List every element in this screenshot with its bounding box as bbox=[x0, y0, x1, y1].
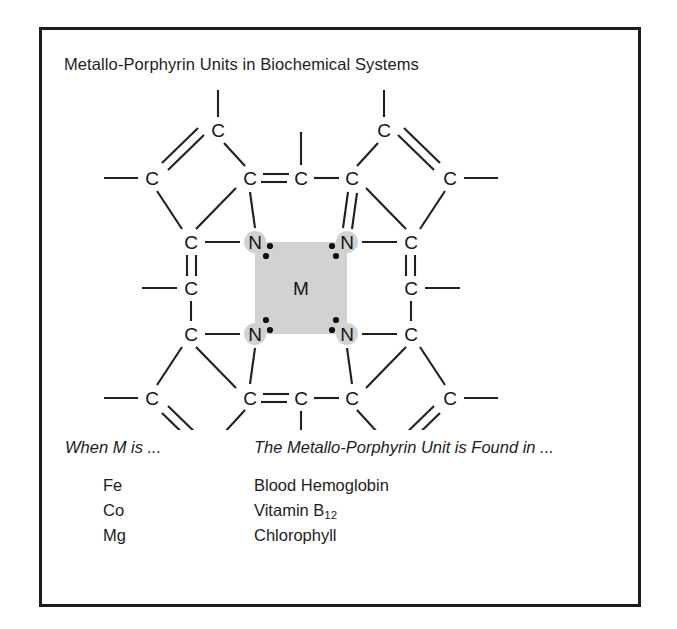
legend-row: FeBlood Hemoglobin bbox=[42, 476, 638, 501]
legend-found-in: Blood Hemoglobin bbox=[254, 476, 389, 495]
atom-C-gamma-bottom-left: C bbox=[145, 388, 159, 409]
atom-C-gamma-top-right: C bbox=[443, 168, 457, 189]
atom-C-alpha-left-bottom: C bbox=[184, 324, 198, 345]
legend-found-in: Chlorophyll bbox=[254, 526, 337, 545]
legend-header-metal: When M is ... bbox=[65, 438, 161, 457]
legend-metal-symbol: Fe bbox=[103, 476, 122, 495]
legend-header-row: When M is ... The Metallo-Porphyrin Unit… bbox=[42, 438, 638, 468]
lone-pair-dot bbox=[267, 243, 273, 249]
legend-row: CoVitamin B12 bbox=[42, 501, 638, 526]
lone-pair-dot bbox=[329, 243, 335, 249]
atom-C-meso-left: C bbox=[184, 278, 198, 299]
atom-C-alpha-bottom-right: C bbox=[345, 388, 359, 409]
atom-C-beta-top-right: C bbox=[377, 120, 391, 141]
legend-metal-symbol: Co bbox=[103, 501, 124, 520]
metal-center-label: M bbox=[293, 278, 309, 299]
atom-C-alpha-top-left: C bbox=[243, 168, 257, 189]
legend-header-found: The Metallo-Porphyrin Unit is Found in .… bbox=[254, 438, 554, 457]
lone-pair-dot bbox=[333, 317, 339, 323]
lone-pair-dot bbox=[329, 327, 335, 333]
atom-N-bottom-right: N bbox=[340, 324, 354, 345]
atom-N-top-left: N bbox=[248, 232, 262, 253]
legend-rows: FeBlood HemoglobinCoVitamin B12MgChlorop… bbox=[42, 476, 638, 551]
chemical-structure-diagram: N N N N C C C C C C C C C C C C C C C C bbox=[42, 90, 638, 430]
figure-frame: Metallo-Porphyrin Units in Biochemical S… bbox=[39, 27, 641, 607]
atom-C-meso-top: C bbox=[294, 168, 308, 189]
atom-C-alpha-right-top: C bbox=[404, 232, 418, 253]
atom-C-gamma-bottom-right: C bbox=[443, 388, 457, 409]
atom-C-gamma-top-left: C bbox=[145, 168, 159, 189]
lone-pair-dot bbox=[333, 253, 339, 259]
legend-metal-symbol: Mg bbox=[103, 526, 126, 545]
atom-C-alpha-bottom-left: C bbox=[243, 388, 257, 409]
figure-title: Metallo-Porphyrin Units in Biochemical S… bbox=[64, 55, 419, 74]
atom-C-meso-bottom: C bbox=[294, 388, 308, 409]
legend-found-in: Vitamin B12 bbox=[254, 501, 337, 520]
legend-row: MgChlorophyll bbox=[42, 526, 638, 551]
atom-N-bottom-left: N bbox=[248, 324, 262, 345]
atom-C-meso-right: C bbox=[404, 278, 418, 299]
lone-pair-dot bbox=[263, 317, 269, 323]
porphyrin-structure-svg: N N N N C C C C C C C C C C C C C C C C bbox=[42, 90, 638, 430]
atom-C-alpha-left-top: C bbox=[184, 232, 198, 253]
lone-pair-dot bbox=[267, 327, 273, 333]
atom-C-beta-top-left: C bbox=[211, 120, 225, 141]
atom-N-top-right: N bbox=[340, 232, 354, 253]
atom-C-alpha-right-bottom: C bbox=[404, 324, 418, 345]
atom-C-alpha-top-right: C bbox=[345, 168, 359, 189]
legend-subscript: 12 bbox=[324, 509, 337, 521]
lone-pair-dot bbox=[263, 253, 269, 259]
legend-table: When M is ... The Metallo-Porphyrin Unit… bbox=[42, 438, 638, 598]
